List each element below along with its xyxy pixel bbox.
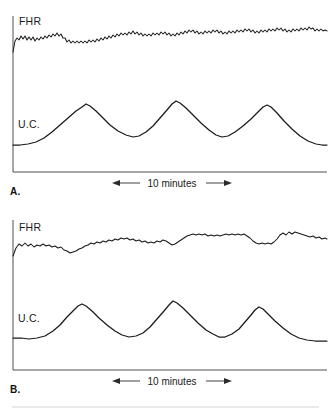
panel-a-scale-arrow-right [224, 180, 232, 186]
panel-a-scale-arrow-left [112, 180, 120, 186]
panel-b-letter: B. [10, 384, 21, 395]
ctg-figure: 10 minutes FHR U.C. A. 10 minute [0, 0, 331, 415]
panel-a-fhr-label: FHR [19, 15, 41, 27]
panel-b-uc-trace [13, 301, 327, 341]
panel-b-scale-arrow-right [224, 378, 232, 384]
bottom-divider [12, 406, 319, 408]
panel-a-letter: A. [10, 186, 21, 197]
panel-b-scale-label: 10 minutes [148, 376, 197, 387]
panel-a-scale-label: 10 minutes [148, 178, 197, 189]
panel-a-plot: 10 minutes FHR U.C. [0, 0, 331, 208]
panel-a: 10 minutes FHR U.C. [0, 0, 331, 208]
panel-a-uc-trace [13, 101, 327, 145]
panel-a-scale-bar: 10 minutes [112, 176, 232, 190]
panel-b-scale-bar: 10 minutes [112, 374, 232, 388]
panel-b-scale-arrow-left [112, 378, 120, 384]
panel-b-fhr-trace [13, 232, 327, 256]
panel-a-uc-label: U.C. [18, 118, 40, 130]
panel-b-plot: 10 minutes FHR U.C. [0, 208, 331, 415]
panel-b: 10 minutes FHR U.C. [0, 208, 331, 415]
panel-b-fhr-label: FHR [19, 221, 41, 233]
panel-b-uc-label: U.C. [18, 312, 40, 324]
panel-a-fhr-trace [13, 27, 327, 52]
